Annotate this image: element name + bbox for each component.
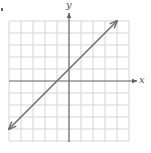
panel-label-mark (1, 8, 3, 11)
coordinate-plane (0, 0, 151, 153)
graph-line (9, 21, 117, 129)
y-axis-label: y (66, 0, 72, 10)
x-axis-label: x (139, 75, 145, 85)
